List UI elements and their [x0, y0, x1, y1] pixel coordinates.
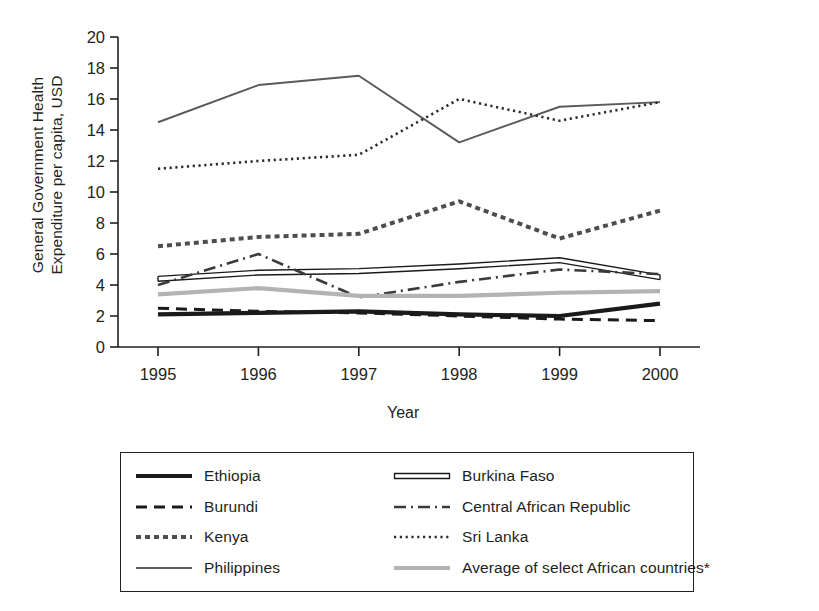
legend-label: Average of select African countries*	[462, 559, 710, 577]
legend-item[interactable]: Ethiopia	[135, 461, 393, 492]
legend-item[interactable]: Average of select African countries*	[393, 553, 710, 584]
legend-item[interactable]: Kenya	[135, 522, 393, 553]
chart-page: General Government Health Expenditure pe…	[0, 0, 819, 611]
legend-item[interactable]: Burundi	[135, 492, 393, 523]
x-tick-label: 1997	[340, 365, 377, 383]
y-tick-label: 6	[96, 245, 105, 263]
legend-label: Sri Lanka	[462, 528, 528, 546]
legend-item[interactable]: Central African Republic	[393, 492, 710, 523]
legend-swatch-solid-medium-icon	[135, 561, 193, 575]
x-tick-label: 1998	[441, 365, 478, 383]
y-tick-label: 10	[87, 183, 105, 201]
y-tick-label: 14	[87, 121, 105, 139]
legend-swatch-solid-gray-icon	[393, 561, 451, 575]
legend-label: Burkina Faso	[462, 467, 555, 485]
y-tick-label: 18	[87, 59, 105, 77]
legend-swatch-dash-dot-icon	[393, 500, 451, 514]
legend-label: Ethiopia	[204, 467, 261, 485]
y-tick-label: 12	[87, 152, 105, 170]
legend-label: Central African Republic	[462, 498, 631, 516]
y-tick-label: 16	[87, 90, 105, 108]
x-tick-label: 1996	[240, 365, 277, 383]
legend-item[interactable]: Sri Lanka	[393, 522, 710, 553]
y-tick-label: 2	[96, 307, 105, 325]
legend-item[interactable]: Burkina Faso	[393, 461, 710, 492]
y-tick-label: 8	[96, 214, 105, 232]
chart-legend: EthiopiaBurkina FasoBurundiCentral Afric…	[120, 452, 694, 592]
y-tick-label: 20	[87, 28, 105, 46]
y-tick-label: 4	[96, 276, 105, 294]
legend-label: Kenya	[204, 528, 248, 546]
legend-swatch-double-hollow-icon	[393, 469, 451, 483]
y-tick-label: 0	[96, 338, 105, 356]
legend-label: Burundi	[204, 498, 258, 516]
line-chart: 0246810121416182019951996199719981999200…	[0, 0, 819, 440]
legend-swatch-dotted-thick-icon	[135, 530, 193, 544]
x-tick-label: 1999	[541, 365, 578, 383]
legend-swatch-dotted-fine-icon	[393, 530, 451, 544]
series-kenya	[158, 201, 660, 246]
series-philippines	[158, 76, 660, 143]
x-tick-label: 1995	[140, 365, 177, 383]
plot-area: General Government Health Expenditure pe…	[0, 0, 819, 440]
legend-swatch-dashed-icon	[135, 500, 193, 514]
x-tick-label: 2000	[642, 365, 679, 383]
legend-label: Philippines	[204, 559, 280, 577]
legend-swatch-solid-thick-icon	[135, 469, 193, 483]
x-axis-title: Year	[387, 404, 419, 422]
legend-item[interactable]: Philippines	[135, 553, 393, 584]
